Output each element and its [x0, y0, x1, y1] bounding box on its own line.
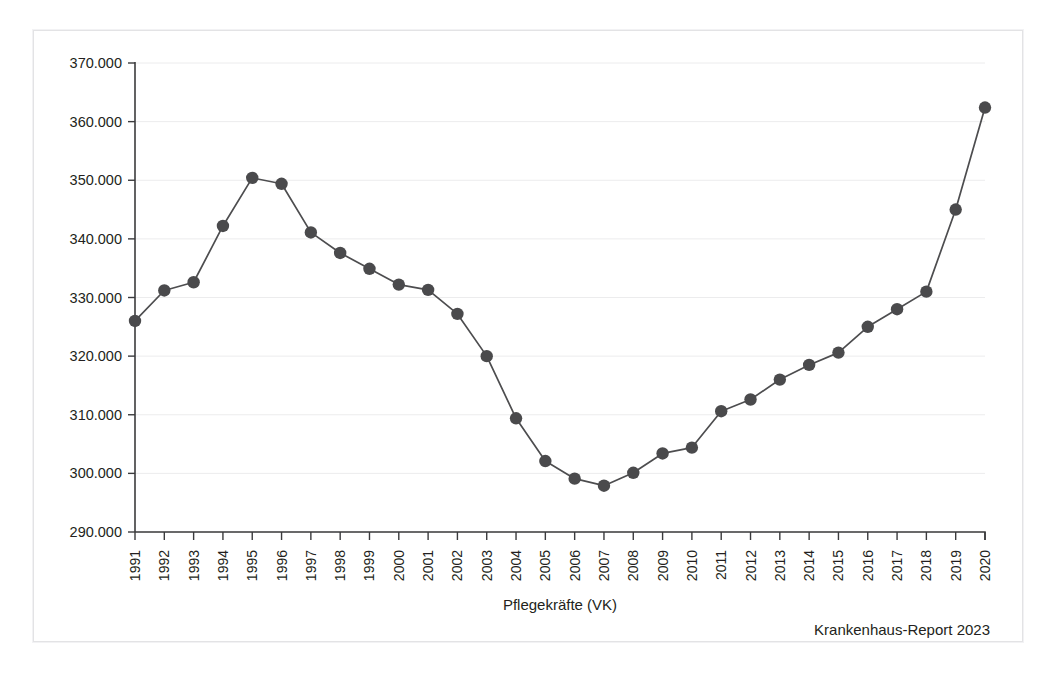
- x-tick-label: 2018: [918, 550, 934, 581]
- x-tick-label: 1996: [274, 550, 290, 581]
- x-tick-label: 2017: [889, 550, 905, 581]
- x-tick-label: 2010: [684, 550, 700, 581]
- x-tick-label: 1993: [186, 550, 202, 581]
- data-point: [187, 276, 199, 288]
- x-tick-label: 2019: [948, 550, 964, 581]
- data-point: [539, 455, 551, 467]
- y-tick-label: 300.000: [70, 465, 122, 481]
- x-tick-label: 1991: [127, 550, 143, 581]
- y-axis-tick-labels: 290.000300.000310.000320.000330.000340.0…: [70, 55, 122, 540]
- y-tick-label: 360.000: [70, 114, 122, 130]
- data-point: [598, 479, 610, 491]
- data-point: [979, 101, 991, 113]
- x-axis-line: [135, 532, 985, 540]
- x-tick-label: 1992: [156, 550, 172, 581]
- series-line-pflegekraefte: [135, 108, 985, 486]
- x-tick-label: 1997: [303, 550, 319, 581]
- x-tick-label: 2020: [977, 550, 993, 581]
- x-tick-label: 2001: [420, 550, 436, 581]
- x-tick-label: 2015: [830, 550, 846, 581]
- x-tick-label: 1999: [361, 550, 377, 581]
- x-tick-label: 2002: [449, 550, 465, 581]
- y-tick-label: 320.000: [70, 348, 122, 364]
- y-axis-ticks: [128, 63, 135, 532]
- gridlines: [135, 63, 985, 532]
- x-tick-label: 2012: [743, 550, 759, 581]
- x-tick-label: 1994: [215, 550, 231, 581]
- x-tick-label: 2008: [625, 550, 641, 581]
- x-tick-label: 2004: [508, 550, 524, 581]
- data-point: [129, 315, 141, 327]
- data-point: [627, 467, 639, 479]
- x-tick-label: 2007: [596, 550, 612, 581]
- data-point: [803, 359, 815, 371]
- x-tick-label: 2005: [537, 550, 553, 581]
- x-tick-label: 2006: [567, 550, 583, 581]
- data-point: [920, 285, 932, 297]
- chart-svg: 290.000300.000310.000320.000330.000340.0…: [0, 0, 1059, 676]
- data-point: [422, 284, 434, 296]
- data-point: [656, 447, 668, 459]
- x-tick-label: 2016: [860, 550, 876, 581]
- x-tick-label: 2003: [479, 550, 495, 581]
- line-chart: 290.000300.000310.000320.000330.000340.0…: [0, 0, 1059, 676]
- data-point: [832, 346, 844, 358]
- data-point: [158, 284, 170, 296]
- data-point: [217, 220, 229, 232]
- data-point: [686, 441, 698, 453]
- y-tick-label: 330.000: [70, 290, 122, 306]
- data-point: [715, 405, 727, 417]
- y-tick-label: 350.000: [70, 172, 122, 188]
- y-tick-label: 310.000: [70, 407, 122, 423]
- series-markers: [129, 101, 991, 492]
- data-point: [481, 350, 493, 362]
- x-tick-label: 2011: [713, 550, 729, 580]
- data-point: [568, 472, 580, 484]
- x-axis-title: Pflegekräfte (VK): [503, 596, 617, 613]
- data-point: [510, 412, 522, 424]
- y-tick-label: 340.000: [70, 231, 122, 247]
- x-tick-label: 1998: [332, 550, 348, 581]
- data-point: [891, 303, 903, 315]
- data-point: [949, 203, 961, 215]
- x-tick-label: 1995: [244, 550, 260, 581]
- data-point: [363, 263, 375, 275]
- x-tick-label: 2009: [655, 550, 671, 581]
- x-tick-label: 2013: [772, 550, 788, 581]
- source-note: Krankenhaus-Report 2023: [814, 621, 990, 638]
- data-point: [305, 226, 317, 238]
- y-tick-label: 290.000: [70, 524, 122, 540]
- x-tick-label: 2014: [801, 550, 817, 581]
- data-point: [334, 247, 346, 259]
- data-point: [451, 308, 463, 320]
- data-point: [774, 373, 786, 385]
- x-tick-label: 2000: [391, 550, 407, 581]
- data-point: [275, 178, 287, 190]
- x-axis-ticks: [135, 532, 985, 540]
- data-point: [246, 172, 258, 184]
- y-tick-label: 370.000: [70, 55, 122, 71]
- data-point: [744, 393, 756, 405]
- data-point: [862, 321, 874, 333]
- data-point: [393, 278, 405, 290]
- x-axis-tick-labels: 1991199219931994199519961997199819992000…: [127, 550, 993, 581]
